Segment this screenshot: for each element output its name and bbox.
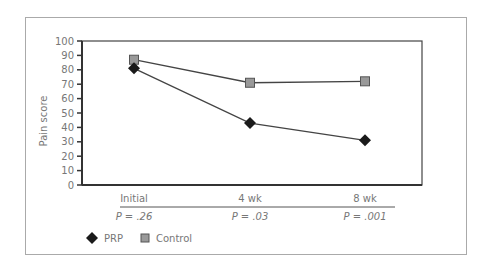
y-tick-label: 70	[61, 79, 74, 90]
y-tick-label: 20	[61, 151, 74, 162]
category-label-initial: Initial	[120, 193, 148, 204]
legend-label-control: Control	[156, 233, 192, 244]
y-axis-title: Pain score	[38, 96, 49, 147]
y-tick-label: 0	[68, 180, 74, 191]
y-tick-label: 30	[61, 136, 74, 147]
y-tick-label: 80	[61, 64, 74, 75]
y-tick-label: 90	[61, 50, 74, 61]
p-value-4wk: P = .03	[232, 211, 269, 222]
square-marker-icon	[361, 77, 370, 86]
legend-square-icon	[141, 234, 149, 242]
y-tick-label: 100	[55, 36, 74, 47]
y-tick-label: 40	[61, 122, 74, 133]
y-ticks: 0102030405060708090100	[55, 36, 82, 191]
chart: 0102030405060708090100 Pain score Initia…	[0, 0, 488, 266]
legend: PRP Control	[86, 232, 192, 244]
category-label-4wk: 4 wk	[238, 193, 262, 204]
diamond-marker-icon	[359, 134, 371, 146]
category-label-8wk: 8 wk	[353, 193, 377, 204]
p-value-initial: P = .26	[116, 211, 153, 222]
legend-label-prp: PRP	[104, 233, 123, 244]
y-tick-label: 10	[61, 165, 74, 176]
y-tick-label: 50	[61, 108, 74, 119]
legend-diamond-icon	[86, 232, 98, 244]
square-marker-icon	[246, 78, 255, 87]
diamond-marker-icon	[244, 117, 256, 129]
y-tick-label: 60	[61, 93, 74, 104]
series-markers	[128, 55, 371, 146]
p-value-8wk: P = .001	[343, 211, 386, 222]
